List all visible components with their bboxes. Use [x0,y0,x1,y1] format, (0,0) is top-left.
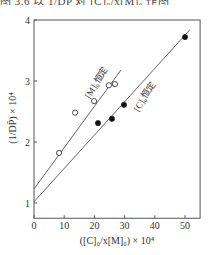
filled-data-point [95,120,100,125]
y-tick-label: 4 [25,15,30,26]
filled-data-point [182,34,187,39]
series-label: [C]₀恒定 [131,79,158,113]
axis-ticks: 010203040501234 [25,15,190,232]
filled-data-point [109,116,114,121]
x-axis-label: ([C]₀/x[M]₀) × 10⁴ [80,235,155,247]
open-data-point [112,81,117,86]
open-data-point [91,99,96,104]
open-data-point [72,110,77,115]
y-axis-label: (1/DP̄) × 10⁴ [7,92,19,144]
x-tick-label: 10 [59,220,69,231]
x-tick-label: 0 [32,220,37,231]
fit-line [34,30,190,202]
filled-data-point [121,102,126,107]
y-tick-label: 2 [25,137,30,148]
fit-lines [34,30,190,202]
scatter-chart: 010203040501234 [M]₀恒定[C]₀恒定 ([C]₀/x[M]₀… [0,0,209,255]
x-tick-label: 30 [120,220,130,231]
y-tick-label: 3 [25,76,30,87]
y-tick-label: 1 [25,198,30,209]
plot-frame [34,20,200,218]
x-tick-label: 50 [180,220,190,231]
plot-border [34,20,200,218]
series-label: [M]₀恒定 [82,64,110,100]
x-tick-label: 20 [89,220,99,231]
data-points [56,34,187,155]
open-data-point [56,150,61,155]
open-data-point [106,83,111,88]
x-tick-label: 40 [150,220,160,231]
